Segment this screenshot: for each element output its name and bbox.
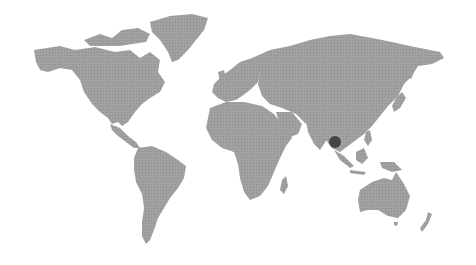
europe <box>212 58 262 102</box>
java <box>350 170 366 175</box>
australia <box>358 172 410 218</box>
tasmania <box>394 222 398 226</box>
world-map-svg <box>0 0 476 265</box>
south-america <box>134 146 186 244</box>
arctic-islands <box>84 28 150 46</box>
new-guinea <box>380 162 402 172</box>
location-marker[interactable] <box>329 136 341 148</box>
new-zealand <box>420 212 432 232</box>
world-map <box>0 0 476 265</box>
borneo <box>356 148 368 164</box>
greenland <box>150 14 208 62</box>
sumatra <box>334 150 354 168</box>
north-america <box>34 46 165 126</box>
madagascar <box>280 176 288 194</box>
central-america <box>110 124 140 148</box>
